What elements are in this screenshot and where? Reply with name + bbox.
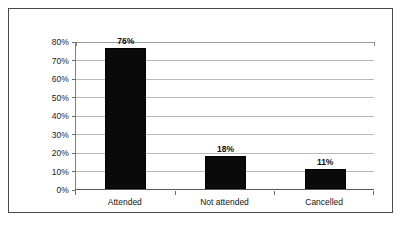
y-axis-tick-label: 70%: [29, 57, 69, 66]
y-axis-tick: [72, 116, 76, 117]
plot-top-cap: [374, 42, 375, 46]
chart-figure-frame: 0%10%20%30%40%50%60%70%80% 76%18%11% Att…: [8, 8, 393, 213]
y-axis-tick: [72, 79, 76, 80]
x-axis-separator: [373, 191, 374, 195]
y-axis-tick-label: 0%: [29, 186, 69, 195]
y-axis-tick: [72, 134, 76, 135]
bar: [305, 169, 346, 189]
y-axis-tick: [72, 60, 76, 61]
bar: [105, 48, 146, 189]
bar-value-label: 11%: [295, 158, 355, 167]
x-axis-category-label: Attended: [75, 198, 175, 207]
x-axis-category-label: Cancelled: [274, 198, 374, 207]
x-axis-separator: [175, 191, 176, 195]
plot-top-cap: [76, 42, 77, 46]
x-axis-separator: [274, 191, 275, 195]
x-axis-separator: [75, 191, 76, 195]
y-axis-tick: [72, 97, 76, 98]
bar-value-label: 18%: [196, 145, 256, 154]
y-axis-tick-label: 20%: [29, 149, 69, 158]
y-axis-tick-label: 80%: [29, 38, 69, 47]
y-axis-tick: [72, 153, 76, 154]
y-axis-tick-label: 60%: [29, 75, 69, 84]
y-axis-tick-label: 40%: [29, 112, 69, 121]
x-axis-category-label: Not attended: [175, 198, 275, 207]
y-axis-tick: [72, 171, 76, 172]
bar: [205, 156, 246, 189]
y-axis-tick-label: 30%: [29, 131, 69, 140]
y-axis-tick: [72, 42, 76, 43]
bar-value-label: 76%: [96, 37, 156, 46]
plot-area: 76%18%11%: [75, 42, 374, 190]
y-axis-tick-label: 50%: [29, 94, 69, 103]
y-axis-tick-label: 10%: [29, 168, 69, 177]
